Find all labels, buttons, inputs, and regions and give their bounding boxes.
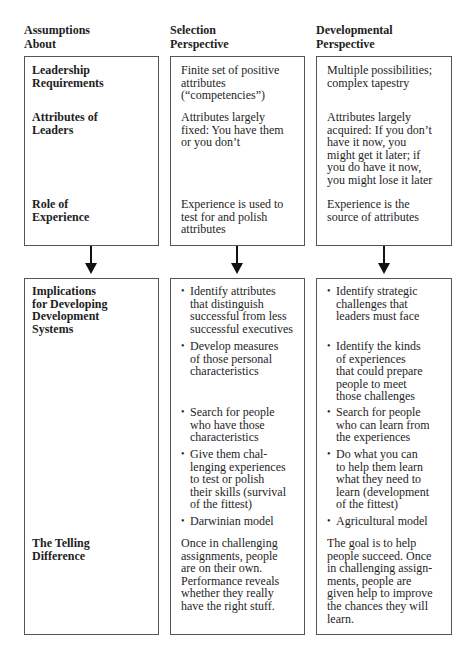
selection-bullet: Identify attributesthat distinguishsucce… [181, 285, 293, 335]
text-line: of the fittest) [336, 498, 429, 511]
developmental-role-of-experience: Experience is thesource of attributes [327, 198, 419, 223]
header-line: Selection [170, 24, 229, 38]
header-assumptions-about: Assumptions About [24, 24, 90, 51]
text-line: have it now, you [327, 136, 432, 149]
label-role-of-experience: Role ofExperience [32, 198, 89, 223]
text-line: (“competencies”) [181, 89, 279, 102]
selection-bullet: Darwinian model [181, 515, 274, 528]
text-line: Requirements [32, 77, 104, 90]
text-line: Implications [32, 285, 107, 298]
text-line: Finite set of positive [181, 64, 279, 77]
text-line: Once in challenging [181, 537, 279, 550]
text-line: characteristics [190, 431, 275, 444]
text-line: characteristics [190, 365, 278, 378]
selection-bullet: Develop measuresof those personalcharact… [181, 340, 278, 378]
text-line: the chances they will [327, 600, 433, 613]
developmental-bullet: Agricultural model [327, 515, 428, 528]
text-line: Search for people [190, 406, 275, 419]
developmental-leadership-requirements: Multiple possibilities;complex tapestry [327, 64, 432, 89]
text-line: Attributes of [32, 111, 98, 124]
developmental-bullet: Do what you canto help them learnwhat th… [327, 448, 429, 511]
text-line: Give them chal- [190, 448, 286, 461]
text-line: have the right stuff. [181, 600, 279, 613]
text-line: Identify attributes [190, 285, 293, 298]
label-attributes-of-leaders: Attributes ofLeaders [32, 111, 98, 136]
selection-role-of-experience: Experience is used totest for and polish… [181, 198, 283, 236]
text-line: Agricultural model [336, 515, 428, 528]
header-selection-perspective: Selection Perspective [170, 24, 229, 51]
text-line: successful executives [190, 323, 293, 336]
text-line: Development [32, 310, 107, 323]
text-line: are on their own. [181, 562, 279, 575]
text-line: Role of [32, 198, 89, 211]
text-line: complex tapestry [327, 77, 432, 90]
selection-leadership-requirements: Finite set of positiveattributes(“compet… [181, 64, 279, 102]
text-line: Identify the kinds [336, 340, 423, 353]
text-line: Attributes largely [327, 111, 432, 124]
text-line: Experience [32, 211, 89, 224]
text-line: Leaders [32, 124, 98, 137]
text-line: attributes [181, 223, 283, 236]
header-line: Perspective [170, 38, 229, 52]
header-developmental-perspective: Developmental Perspective [316, 24, 393, 51]
text-line: Identify strategic [336, 285, 419, 298]
header-line: About [24, 38, 90, 52]
text-line: successful from less [190, 310, 293, 323]
text-line: or you don’t [181, 136, 284, 149]
selection-telling-difference: Once in challengingassignments, peoplear… [181, 537, 279, 613]
text-line: what they need to [336, 473, 429, 486]
text-line: Develop measures [190, 340, 278, 353]
text-line: Systems [32, 323, 107, 336]
text-line: Attributes largely [181, 111, 284, 124]
text-line: Do what you can [336, 448, 429, 461]
text-line: leaders must face [336, 310, 419, 323]
text-line: Leadership [32, 64, 104, 77]
header-line: Developmental [316, 24, 393, 38]
developmental-telling-difference: The goal is to helppeople succeed. Oncei… [327, 537, 433, 625]
text-line: in challenging assign- [327, 562, 433, 575]
header-line: Perspective [316, 38, 393, 52]
text-line: the experiences [336, 431, 430, 444]
text-line: Experience is used to [181, 198, 283, 211]
text-line: The Telling [32, 537, 90, 550]
text-line: Search for people [336, 406, 430, 419]
developmental-bullet: Search for peoplewho can learn fromthe e… [327, 406, 430, 444]
developmental-attributes-of-leaders: Attributes largelyacquired: If you don’t… [327, 111, 432, 187]
text-line: Darwinian model [190, 515, 274, 528]
header-line: Assumptions [24, 24, 90, 38]
label-telling-difference: The TellingDifference [32, 537, 90, 562]
label-implications: Implicationsfor DevelopingDevelopmentSys… [32, 285, 107, 335]
text-line: source of attributes [327, 211, 419, 224]
text-line: that could prepare [336, 365, 423, 378]
text-line: those challenges [336, 390, 423, 403]
selection-bullet: Search for peoplewho have thosecharacter… [181, 406, 275, 444]
text-line: Difference [32, 550, 90, 563]
text-line: Experience is the [327, 198, 419, 211]
selection-attributes-of-leaders: Attributes largelyfixed: You have themor… [181, 111, 284, 149]
selection-bullet: Give them chal-lenging experiencesto tes… [181, 448, 286, 511]
text-line: Multiple possibilities; [327, 64, 432, 77]
developmental-bullet: Identify the kindsof experiencesthat cou… [327, 340, 423, 403]
text-line: of the fittest) [190, 498, 286, 511]
text-line: The goal is to help [327, 537, 433, 550]
text-line: you might lose it later [327, 174, 432, 187]
developmental-bullet: Identify strategicchallenges thatleaders… [327, 285, 419, 323]
label-leadership-requirements: LeadershipRequirements [32, 64, 104, 89]
text-line: learn. [327, 613, 433, 626]
text-line: to test or polish [190, 473, 286, 486]
